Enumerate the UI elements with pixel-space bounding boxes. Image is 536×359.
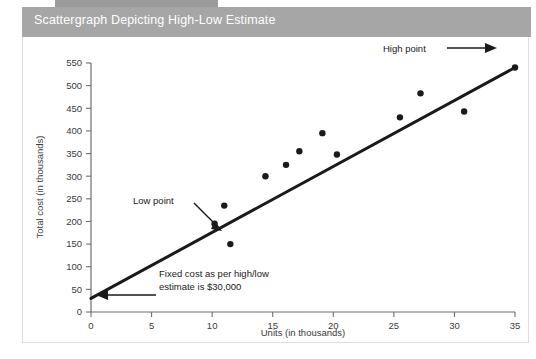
chart-panel: 050100150200250300350400450500550 051015… [22, 37, 529, 343]
chart-title-bar: Scattergraph Depicting High-Low Estimate [22, 7, 531, 37]
data-point [417, 90, 423, 96]
high-point-label: High point [383, 43, 426, 54]
data-point [221, 202, 227, 208]
y-tick-label: 150 [66, 238, 82, 249]
header-accent-strip [55, 0, 218, 7]
y-axis-ticks: 050100150200250300350400450500550 [66, 57, 91, 317]
scattergraph-figure: Scattergraph Depicting High-Low Estimate… [0, 0, 536, 359]
scatter-plot: 050100150200250300350400450500550 051015… [23, 37, 528, 341]
y-tick-label: 200 [66, 216, 82, 227]
data-point [512, 64, 518, 70]
annotation-fixed-cost: Fixed cost as per high/low estimate is $… [96, 268, 269, 300]
data-point [397, 114, 403, 120]
data-point [334, 151, 340, 157]
y-tick-label: 500 [66, 80, 82, 91]
y-tick-label: 100 [66, 261, 82, 272]
x-tick-label: 5 [149, 320, 154, 331]
fixed-cost-label-line1: Fixed cost as per high/low [159, 268, 269, 279]
y-tick-label: 400 [66, 125, 82, 136]
low-point-arrow-shaft [194, 203, 217, 226]
y-tick-label: 50 [71, 284, 82, 295]
data-point [461, 108, 467, 114]
low-point-label: Low point [133, 195, 174, 206]
trend-line [91, 68, 515, 299]
data-point [296, 148, 302, 154]
axes-group [91, 63, 515, 312]
data-point [227, 241, 233, 247]
data-point [283, 162, 289, 168]
y-tick-label: 0 [77, 306, 82, 317]
x-tick-label: 10 [207, 320, 218, 331]
fixed-cost-label-line2: estimate is $30,000 [159, 281, 241, 292]
high-point-arrow-head [485, 43, 497, 53]
y-tick-label: 300 [66, 171, 82, 182]
data-point [319, 130, 325, 136]
data-point [262, 173, 268, 179]
y-axis-title: Total cost (in thousands) [34, 136, 45, 239]
y-tick-label: 450 [66, 103, 82, 114]
page-title: Scattergraph Depicting High-Low Estimate [34, 13, 276, 27]
x-axis-title: Units (in thousands) [261, 327, 345, 338]
y-tick-label: 350 [66, 148, 82, 159]
annotation-high-point: High point [383, 43, 497, 54]
y-tick-label: 550 [66, 57, 82, 68]
x-tick-label: 35 [510, 320, 521, 331]
x-tick-label: 30 [449, 320, 460, 331]
x-tick-label: 25 [389, 320, 400, 331]
annotation-low-point: Low point [133, 195, 222, 231]
x-tick-label: 0 [88, 320, 93, 331]
y-tick-label: 250 [66, 193, 82, 204]
